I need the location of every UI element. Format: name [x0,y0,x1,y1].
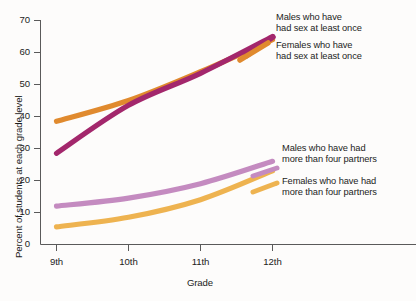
annotation-females-sex: Females who have had sex at least once [276,40,362,63]
series-line-1 [57,37,273,154]
annotation-females-sex-line1: Females who have [276,40,362,51]
annotation-females-partners-line2: more than four partners [282,187,377,198]
annotation-males-partners-line2: more than four partners [282,154,377,165]
y-tick-label-60: 60 [6,46,30,57]
leader-females-partners [253,183,277,192]
line-chart: 70 60 50 40 30 20 10 0 9th 10th 11th 12t… [0,0,416,301]
annotation-males-partners-line1: Males who have had [282,143,377,154]
annotation-females-sex-line2: had sex at least once [276,51,362,62]
y-tick-label-50: 50 [6,78,30,89]
x-tick-label-10th: 10th [108,256,149,267]
annotation-males-sex: Males who have had sex at least once [276,12,362,35]
annotation-males-sex-line2: had sex at least once [276,23,362,34]
series-line-3 [57,171,273,227]
x-tick-label-11th: 11th [180,256,221,267]
annotation-males-sex-line1: Males who have [276,12,362,23]
y-axis-title: Percent of students at each grade level [13,96,24,259]
annotation-females-partners: Females who have had more than four part… [282,176,377,199]
x-tick-label-9th: 9th [36,256,77,267]
series-layer [57,37,273,227]
annotation-males-partners: Males who have had more than four partne… [282,143,377,166]
x-axis-title: Grade [140,277,260,288]
annotation-females-partners-line1: Females who have had [282,176,377,187]
y-tick-label-70: 70 [6,14,30,25]
x-tick-label-12th: 12th [252,256,293,267]
